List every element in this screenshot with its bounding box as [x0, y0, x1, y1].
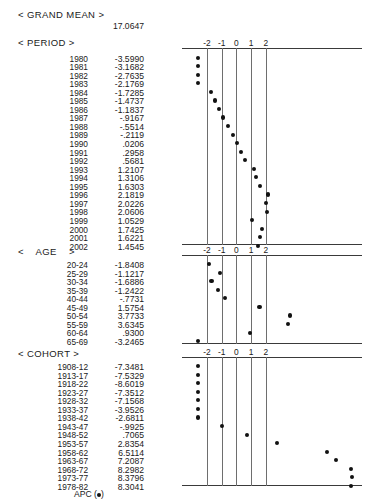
- axis-tick-label--2: -2: [200, 38, 214, 48]
- axis-top-rule: [182, 255, 362, 256]
- apc-legend: APC (): [74, 489, 104, 499]
- gridline-2: [266, 357, 267, 486]
- data-point: [334, 458, 338, 462]
- gridline-0: [236, 357, 237, 486]
- apc-legend-suffix: ): [101, 489, 104, 499]
- data-point: [266, 192, 270, 196]
- axis-tick-label--1: -1: [215, 245, 229, 255]
- data-point: [243, 158, 247, 162]
- plot-panel-1: [182, 255, 362, 344]
- data-point: [288, 313, 292, 317]
- apc-report: < GRAND MEAN > 17.0647 < PERIOD >-2-1012…: [0, 0, 365, 504]
- axis-tick-label--2: -2: [200, 347, 214, 357]
- gridline-1: [251, 48, 252, 245]
- data-point: [218, 271, 222, 275]
- data-point: [257, 305, 261, 309]
- data-point: [349, 484, 353, 488]
- data-point: [252, 167, 256, 171]
- data-point: [196, 64, 200, 68]
- gridline--2: [207, 255, 208, 344]
- data-point: [231, 133, 235, 137]
- data-point: [196, 56, 200, 60]
- gridline-0: [236, 48, 237, 245]
- section-title-cohort: < COHORT >: [18, 349, 79, 358]
- axis-tick-label-0: 0: [229, 245, 243, 255]
- gridline-0: [236, 255, 237, 344]
- axis-tick-label-0: 0: [229, 347, 243, 357]
- gridline--2: [207, 357, 208, 486]
- axis-bottom-rule: [182, 485, 362, 486]
- gridline-1: [251, 357, 252, 486]
- section-title-age: < AGE >: [18, 247, 75, 256]
- axis-tick-label-0: 0: [229, 38, 243, 48]
- data-point: [216, 288, 220, 292]
- gridline-1: [251, 255, 252, 344]
- axis-tick-label-1: 1: [244, 347, 258, 357]
- data-point: [196, 373, 200, 377]
- data-point: [275, 441, 279, 445]
- data-point: [239, 150, 243, 154]
- axis-tick-label--1: -1: [215, 38, 229, 48]
- axis-tick-label-1: 1: [244, 245, 258, 255]
- data-point: [196, 390, 200, 394]
- axis-tick-label-2: 2: [259, 245, 273, 255]
- axis-tick-label-2: 2: [259, 347, 273, 357]
- apc-legend-text: APC (: [74, 489, 97, 499]
- data-point: [258, 184, 262, 188]
- data-point: [264, 201, 268, 205]
- gridline--1: [222, 357, 223, 486]
- data-point: [209, 90, 213, 94]
- gridline-2: [266, 255, 267, 344]
- gridline--2: [207, 48, 208, 245]
- data-point: [196, 381, 200, 385]
- axis-tick-label-2: 2: [259, 38, 273, 48]
- data-point: [196, 415, 200, 419]
- plot-panel-2: [182, 357, 362, 486]
- data-point: [286, 322, 290, 326]
- data-point: [349, 467, 353, 471]
- grand-mean-value: 17.0647: [60, 22, 144, 31]
- data-point: [196, 398, 200, 402]
- data-point: [250, 218, 254, 222]
- data-point: [196, 364, 200, 368]
- axis-bottom-rule: [182, 343, 362, 344]
- data-point: [217, 107, 221, 111]
- data-point: [207, 262, 211, 266]
- data-point: [325, 450, 329, 454]
- axis-tick-label-1: 1: [244, 38, 258, 48]
- data-point: [196, 73, 200, 77]
- data-point: [248, 331, 252, 335]
- data-point: [196, 81, 200, 85]
- gridline--1: [222, 48, 223, 245]
- row-value: 1.4545: [92, 243, 144, 252]
- data-point: [254, 175, 258, 179]
- axis-top-rule: [182, 48, 362, 49]
- section-title-period: < PERIOD >: [18, 38, 75, 47]
- data-point: [260, 227, 264, 231]
- data-point: [213, 98, 217, 102]
- axis-top-rule: [182, 357, 362, 358]
- data-point: [226, 124, 230, 128]
- data-point: [258, 235, 262, 239]
- grand-mean-header: < GRAND MEAN >: [18, 10, 104, 19]
- axis-tick-label--2: -2: [200, 245, 214, 255]
- data-point: [221, 115, 225, 119]
- data-point: [209, 279, 213, 283]
- data-point: [196, 407, 200, 411]
- row-value: -3.2465: [92, 338, 144, 347]
- data-point: [223, 296, 227, 300]
- data-point: [235, 141, 239, 145]
- data-point: [350, 475, 354, 479]
- axis-tick-label--1: -1: [215, 347, 229, 357]
- gridline-2: [266, 48, 267, 245]
- data-point: [265, 210, 269, 214]
- plot-panel-0: [182, 48, 362, 245]
- data-point: [220, 424, 224, 428]
- row-label: 65-69: [20, 338, 88, 347]
- data-point: [245, 433, 249, 437]
